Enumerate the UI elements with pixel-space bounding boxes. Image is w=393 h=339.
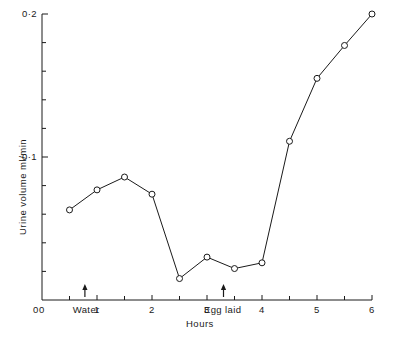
origin-tick-label: 0 — [33, 304, 39, 315]
x-axis-ticks — [70, 295, 373, 300]
annotation-label: Water — [73, 304, 100, 315]
data-point — [67, 207, 73, 213]
y-axis-tick-label: 0·1 — [22, 151, 37, 162]
data-point — [259, 260, 265, 266]
data-point — [204, 254, 210, 260]
data-point — [287, 138, 293, 144]
x-axis-tick-label: 0 — [39, 304, 45, 315]
annotation-arrows — [82, 284, 226, 297]
figure: Urine volume ml/min Hours 0123456 0·10·2… — [0, 0, 393, 339]
y-axis-tick-label: 0·2 — [22, 8, 37, 19]
y-axis-ticks — [42, 14, 48, 271]
line-chart — [0, 0, 393, 339]
annotation-arrow — [82, 284, 87, 297]
x-axis-tick-label: 2 — [149, 304, 155, 315]
x-axis-tick-label: 4 — [259, 304, 265, 315]
data-point — [177, 276, 183, 282]
data-point — [342, 42, 348, 48]
x-axis-tick-label: 5 — [314, 304, 320, 315]
x-axis-title: Hours — [186, 318, 214, 329]
annotation-arrow — [221, 284, 226, 297]
data-point — [122, 174, 128, 180]
data-point — [149, 191, 155, 197]
data-series-line — [70, 14, 373, 279]
annotation-label: Egg laid — [204, 304, 242, 315]
data-point — [369, 11, 375, 17]
data-point-markers — [67, 11, 376, 282]
data-point — [314, 75, 320, 81]
x-axis-tick-label: 6 — [369, 304, 375, 315]
data-point — [94, 187, 100, 193]
data-point — [232, 266, 238, 272]
